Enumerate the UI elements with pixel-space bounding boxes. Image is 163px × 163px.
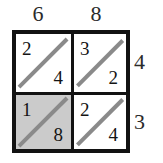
cell-tens-digit: 1 xyxy=(22,100,32,119)
lattice-cell-r0c0: 2 4 xyxy=(16,34,71,92)
lattice-cell-r1c1: 2 4 xyxy=(71,92,126,150)
lattice-cell-r0c1: 3 2 xyxy=(71,34,126,92)
top-label-column-0: 6 xyxy=(24,1,52,27)
lattice-multiplication-figure: 6 8 4 3 2 4 3 2 1 8 2 4 xyxy=(0,0,163,163)
right-label-row-1: 3 xyxy=(134,109,158,135)
cell-ones-digit: 8 xyxy=(54,125,64,144)
lattice-cell-r1c0: 1 8 xyxy=(16,92,71,150)
cell-ones-digit: 4 xyxy=(54,68,64,87)
cell-tens-digit: 2 xyxy=(22,39,32,58)
cell-ones-digit: 2 xyxy=(109,68,119,87)
cell-tens-digit: 2 xyxy=(80,100,90,119)
lattice-grid: 2 4 3 2 1 8 2 4 xyxy=(12,30,130,153)
top-label-column-1: 8 xyxy=(82,1,110,27)
right-label-row-0: 4 xyxy=(134,49,158,75)
cell-ones-digit: 4 xyxy=(109,125,119,144)
cell-tens-digit: 3 xyxy=(80,39,90,58)
